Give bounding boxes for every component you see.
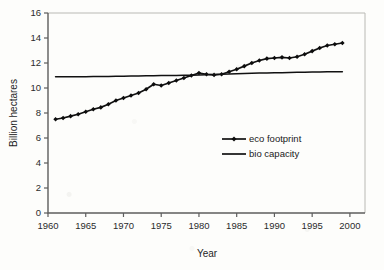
data-point-marker (340, 41, 345, 46)
data-point-marker (182, 76, 187, 81)
chart-legend: eco footprintbio capacity (222, 133, 302, 159)
y-tick-label: 2 (36, 182, 41, 193)
legend-label: eco footprint (249, 133, 302, 144)
x-tick-label: 1960 (37, 220, 58, 231)
x-tick-label: 1970 (113, 220, 134, 231)
data-point-marker (99, 105, 104, 110)
data-point-marker (76, 112, 81, 117)
x-axis-title: Year (197, 248, 218, 259)
legend-label: bio capacity (249, 148, 299, 159)
data-point-marker (302, 52, 307, 57)
plot-frame (48, 13, 365, 213)
y-axis-title: Billion hectares (8, 79, 19, 147)
x-tick-label: 1985 (226, 220, 247, 231)
data-point-marker (272, 56, 277, 61)
x-tick-label: 2000 (339, 220, 360, 231)
data-point-marker (280, 55, 285, 60)
x-tick-label: 1995 (302, 220, 323, 231)
data-point-marker (265, 56, 270, 61)
data-point-marker (325, 43, 330, 48)
data-point-marker (121, 96, 126, 101)
x-axis-ticks: 196019651970197519801985199019952000 (37, 213, 360, 231)
x-tick-label: 1990 (264, 220, 285, 231)
y-tick-label: 14 (30, 32, 41, 43)
legend-marker (231, 136, 236, 141)
data-point-marker (295, 54, 300, 59)
y-axis-ticks: 0246810121416 (30, 7, 48, 218)
data-point-marker (83, 109, 88, 114)
data-point-marker (159, 83, 164, 88)
data-point-marker (333, 42, 338, 47)
data-point-marker (129, 93, 134, 98)
y-tick-label: 0 (36, 207, 41, 218)
series-line-eco-footprint (56, 43, 343, 119)
data-point-marker (91, 107, 96, 112)
data-point-marker (234, 67, 239, 72)
y-tick-label: 10 (30, 82, 41, 93)
chart-page: 0246810121416 19601965197019751980198519… (0, 0, 384, 270)
data-point-marker (53, 117, 58, 122)
y-tick-label: 4 (36, 157, 41, 168)
data-point-marker (68, 114, 73, 119)
x-tick-label: 1965 (75, 220, 96, 231)
x-tick-label: 1975 (151, 220, 172, 231)
data-point-marker (250, 61, 255, 66)
y-tick-label: 16 (30, 7, 41, 18)
data-point-marker (174, 78, 179, 83)
x-tick-label: 1980 (188, 220, 209, 231)
data-point-marker (287, 56, 292, 61)
y-tick-label: 6 (36, 132, 41, 143)
y-tick-label: 8 (36, 107, 41, 118)
data-point-marker (242, 64, 247, 69)
data-point-marker (166, 81, 171, 86)
y-tick-label: 12 (30, 57, 41, 68)
data-point-marker (310, 49, 315, 54)
line-chart: 0246810121416 19601965197019751980198519… (0, 0, 384, 270)
data-point-marker (61, 116, 66, 121)
data-point-marker (317, 46, 322, 51)
data-point-marker (257, 58, 262, 63)
series-layer (53, 41, 344, 122)
